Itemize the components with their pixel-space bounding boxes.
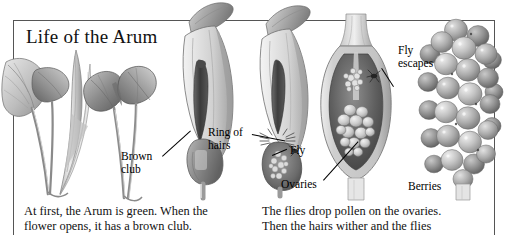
- label-fly: Fly: [290, 144, 305, 156]
- label-fly-escapes-line2: escapes: [398, 57, 433, 70]
- label-ring-of-hairs-line2: hairs: [208, 139, 243, 152]
- label-ring-of-hairs: Ring of hairs: [208, 126, 243, 151]
- label-brown-club-line2: club: [121, 163, 152, 176]
- label-fly-escapes-line1: Fly: [398, 44, 433, 57]
- figure-canvas: Life of the Arum: [0, 0, 506, 235]
- figure-title: Life of the Arum: [26, 26, 157, 48]
- caption-left: At first, the Arum is green. When the fl…: [24, 204, 208, 233]
- label-brown-club-line1: Brown: [121, 150, 152, 163]
- label-ring-of-hairs-line1: Ring of: [208, 126, 243, 139]
- label-brown-club: Brown club: [121, 150, 152, 175]
- illustration-stage-6-berries: [416, 8, 506, 200]
- illustration-stage-5-ovary-chamber: [312, 14, 410, 200]
- label-ovaries: Ovaries: [281, 178, 317, 190]
- caption-right: The flies drop pollen on the ovaries. Th…: [262, 204, 441, 233]
- caption-right-line2: Then the hairs wither and the flies: [262, 219, 441, 234]
- label-berries: Berries: [408, 180, 441, 192]
- caption-right-line1: The flies drop pollen on the ovaries.: [262, 204, 441, 219]
- illustration-stage-3-open-spathe: [163, 2, 249, 198]
- caption-left-line1: At first, the Arum is green. When the: [24, 204, 208, 219]
- label-fly-escapes: Fly escapes: [398, 44, 433, 69]
- caption-left-line2: flower opens, it has a brown club.: [24, 219, 208, 234]
